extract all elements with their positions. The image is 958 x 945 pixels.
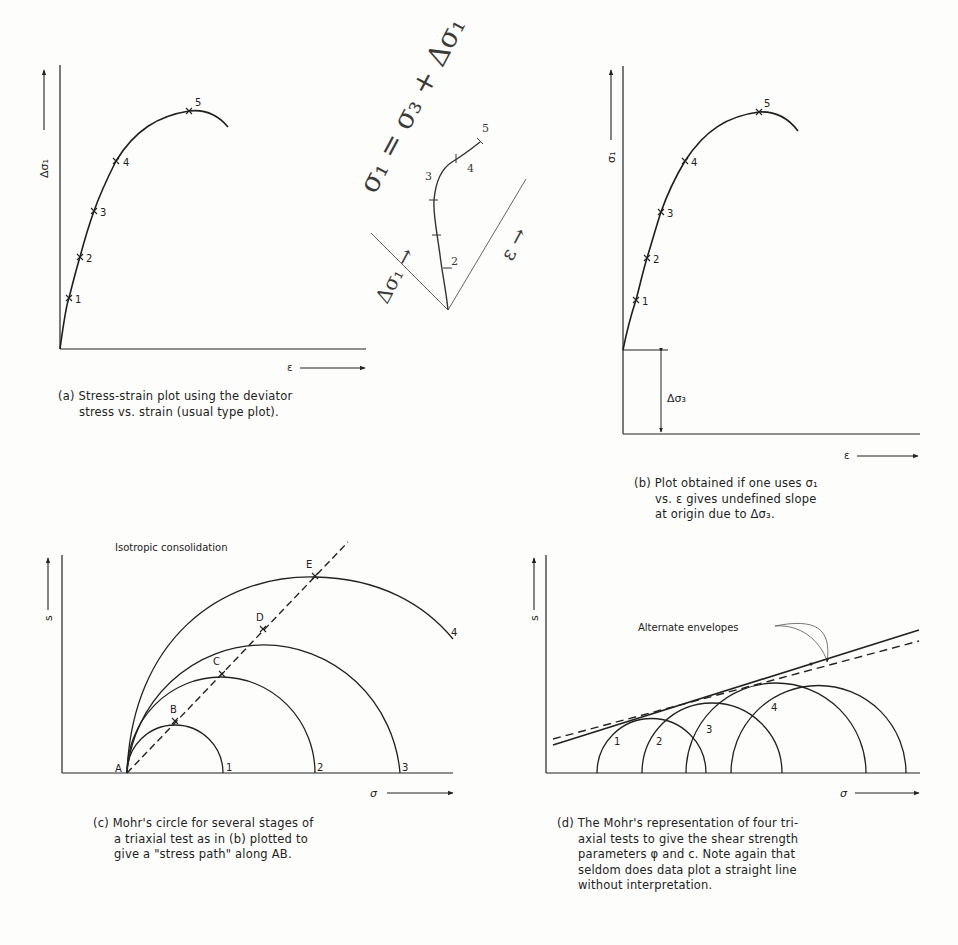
- isotropic-consolidation-note: Isotropic consolidation: [115, 542, 227, 553]
- circle-label-1: 1: [226, 762, 232, 773]
- mohr-circle-3: [127, 645, 400, 773]
- curve-point-markers: [633, 109, 762, 303]
- path-label-E: E: [306, 559, 312, 570]
- caption-a-line-2: stress vs. strain (usual type plot).: [58, 405, 292, 421]
- mohr-circle-4: [127, 577, 453, 773]
- caption-c-line-2: a triaxial test as in (b) plotted to: [93, 832, 313, 848]
- circle-label-2: 2: [317, 762, 323, 773]
- hand-point-2: 2: [451, 255, 458, 268]
- point-label-5: 5: [195, 97, 201, 108]
- point-label-2: 2: [653, 254, 659, 265]
- caption-d-line-5: without interpretation.: [557, 878, 798, 894]
- point-label-1: 1: [642, 296, 648, 307]
- mohr-circle-2: [642, 703, 782, 773]
- caption-b: (b) Plot obtained if one uses σ₁ vs. ε g…: [634, 476, 818, 523]
- hand-axis-label-strain: ε →: [495, 223, 532, 264]
- handwritten-note: σ₁ = σ₃ + Δσ₁ Δσ₁ → ε → 2 3 4 5: [352, 12, 532, 310]
- point-label-1: 1: [75, 294, 81, 305]
- y-axis-label: s: [42, 615, 55, 621]
- mohr-circle-4: [731, 686, 906, 774]
- caption-d-line-1: (d) The Mohr's representation of four tr…: [557, 816, 798, 832]
- curve-point-markers: [66, 108, 192, 301]
- path-label-B: B: [170, 704, 177, 715]
- y-axis-label: σ₁: [605, 152, 618, 163]
- path-label-C: C: [213, 656, 220, 667]
- x-axis-label: ε: [287, 362, 292, 373]
- caption-a: (a) Stress-strain plot using the deviato…: [58, 389, 292, 420]
- caption-b-line-3: at origin due to Δσ₃.: [634, 507, 818, 523]
- caption-d: (d) The Mohr's representation of four tr…: [557, 816, 798, 894]
- caption-c-line-3: give a "stress path" along AB.: [93, 847, 313, 863]
- caption-b-line-2: vs. ε gives undefined slope: [634, 492, 818, 508]
- hand-axis-label-stress: Δσ₁ →: [370, 244, 419, 308]
- y-axis-label: s: [528, 615, 541, 621]
- hand-tick-marks: [429, 138, 483, 268]
- caption-a-line-1: (a) Stress-strain plot using the deviato…: [58, 389, 292, 405]
- panel-c: s σ Isotropic consolidation A B C D E 1 …: [42, 542, 457, 800]
- caption-d-line-2: axial tests to give the shear strength: [557, 832, 798, 848]
- circle-label-1: 1: [614, 736, 620, 747]
- annotation-dot: [809, 662, 812, 665]
- stress-strain-curve: [60, 111, 228, 349]
- caption-c-line-1: (c) Mohr's circle for several stages of: [93, 816, 313, 832]
- x-axis-label: ε: [844, 450, 849, 461]
- mohr-circle-1: [127, 725, 223, 773]
- envelope-solid: [553, 630, 919, 745]
- circle-label-4: 4: [771, 702, 777, 713]
- alternate-envelopes-label: Alternate envelopes: [638, 622, 739, 633]
- circle-label-2: 2: [656, 736, 662, 747]
- x-axis-label: σ: [840, 787, 848, 800]
- caption-c: (c) Mohr's circle for several stages of …: [93, 816, 313, 863]
- caption-b-line-1: (b) Plot obtained if one uses σ₁: [634, 476, 818, 492]
- annotation-leader-2: [775, 623, 828, 662]
- envelope-dashed: [553, 641, 919, 739]
- path-label-D: D: [256, 612, 264, 623]
- circle-label-3: 3: [402, 762, 408, 773]
- caption-d-line-4: seldom does data plot a straight line: [557, 863, 798, 879]
- hand-point-4: 4: [467, 162, 474, 175]
- point-label-2: 2: [86, 253, 92, 264]
- annotation-leader-1: [775, 626, 827, 661]
- y-axis-label: Δσ₁: [38, 159, 51, 178]
- x-axis-label: σ: [370, 787, 378, 800]
- point-label-4: 4: [123, 157, 129, 168]
- point-label-3: 3: [100, 207, 106, 218]
- figure-canvas: Δσ₁ ε 1 2 3 4 5 σ₁ = σ₃ + Δσ₁ Δσ₁ → ε →: [0, 0, 958, 945]
- hand-point-3: 3: [425, 170, 432, 183]
- circle-label-4: 4: [451, 627, 457, 638]
- point-label-3: 3: [667, 208, 673, 219]
- caption-d-line-3: parameters φ and c. Note again that: [557, 847, 798, 863]
- point-label-4: 4: [691, 157, 697, 168]
- handwritten-equation: σ₁ = σ₃ + Δσ₁: [352, 12, 472, 199]
- offset-label: Δσ₃: [667, 392, 686, 405]
- stress-strain-curve: [623, 112, 798, 350]
- hand-point-5: 5: [482, 122, 489, 135]
- panel-a: Δσ₁ ε 1 2 3 4 5: [38, 65, 366, 373]
- origin-label-A: A: [115, 763, 122, 774]
- panel-d: s σ Alternate envelopes 1 2 3 4: [528, 555, 920, 800]
- circle-label-3: 3: [706, 724, 712, 735]
- panel-b: Δσ₃ σ₁ ε 1 2 3 4 5: [605, 66, 920, 461]
- point-label-5: 5: [764, 98, 770, 109]
